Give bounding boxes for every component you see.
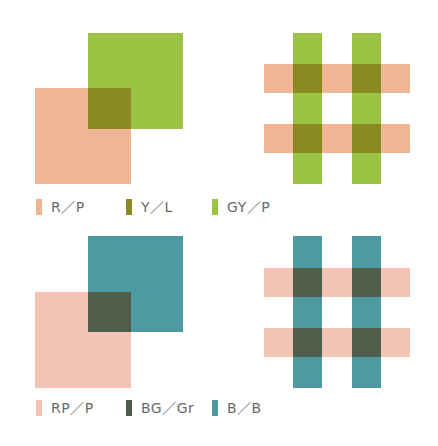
bottom-darkgreen-intersection-4 [352, 328, 381, 357]
top-salmon-horizontal-bar-1 [264, 64, 410, 93]
legend-label: RP／P [51, 400, 94, 416]
bottom-darkgreen-overlap [88, 292, 131, 332]
top-olive-intersection-1 [293, 64, 322, 93]
top-olive-intersection-2 [352, 64, 381, 93]
legend-swatch [126, 199, 132, 215]
top-olive-intersection-3 [293, 124, 322, 153]
bottom-pink-horizontal-bar-2 [264, 328, 410, 357]
top-salmon-horizontal-bar-2 [264, 124, 410, 153]
top-green-vertical-bar-1 [293, 33, 322, 184]
bottom-pink-horizontal-bar-1 [264, 268, 410, 297]
bottom-teal-vertical-bar-2 [352, 236, 381, 388]
legend-item-b-b: B／B [212, 400, 262, 416]
legend-label: GY／P [227, 199, 270, 215]
legend-label: BG／Gr [141, 400, 194, 416]
legend-swatch [212, 199, 218, 215]
legend-swatch [36, 400, 42, 416]
legend-item-r-p: R／P [36, 199, 85, 215]
legend-item-rp-p: RP／P [36, 400, 94, 416]
legend-item-gy-p: GY／P [212, 199, 270, 215]
legend-label: B／B [227, 400, 262, 416]
legend-swatch [36, 199, 42, 215]
bottom-darkgreen-intersection-2 [352, 268, 381, 297]
top-green-vertical-bar-2 [352, 33, 381, 184]
legend-item-y-l: Y／L [126, 199, 173, 215]
legend-swatch [126, 400, 132, 416]
legend-item-bg-gr: BG／Gr [126, 400, 194, 416]
legend-label: Y／L [141, 199, 173, 215]
bottom-darkgreen-intersection-1 [293, 268, 322, 297]
legend-swatch [212, 400, 218, 416]
legend-label: R／P [51, 199, 85, 215]
bottom-teal-vertical-bar-1 [293, 236, 322, 388]
top-olive-intersection-4 [352, 124, 381, 153]
top-olive-overlap [88, 88, 131, 129]
bottom-darkgreen-intersection-3 [293, 328, 322, 357]
